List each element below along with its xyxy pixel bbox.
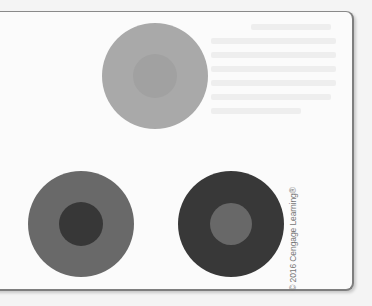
bleed-through-line xyxy=(211,38,336,44)
bottom-left-circle-inner xyxy=(59,202,103,246)
bottom-right-circle-outer xyxy=(178,171,284,277)
bleed-through-line xyxy=(251,24,331,30)
bleed-through-line xyxy=(211,66,336,72)
bleed-through-line xyxy=(211,80,336,86)
bleed-through-line xyxy=(211,108,301,114)
bottom-left-circle-outer xyxy=(28,171,134,277)
top-circle-outer xyxy=(102,23,208,129)
top-circle-inner xyxy=(133,54,177,98)
bleed-through-line xyxy=(211,52,336,58)
bleed-through-line xyxy=(211,94,331,100)
copyright-credit: © 2016 Cengage Learning® xyxy=(288,187,298,291)
bottom-right-circle-inner xyxy=(210,203,252,245)
